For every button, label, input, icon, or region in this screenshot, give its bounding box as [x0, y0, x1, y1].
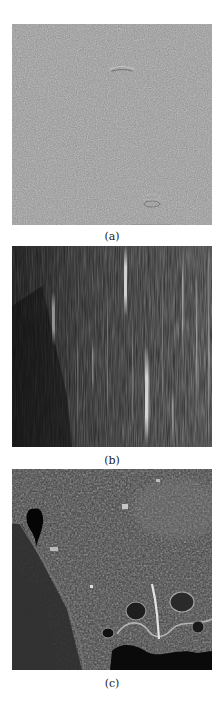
panel-b-image — [12, 246, 212, 447]
panel-a-image — [12, 24, 212, 225]
panel-b-caption: (b) — [0, 455, 224, 467]
panel-a-caption: (a) — [0, 231, 224, 243]
panel-c-image — [12, 469, 212, 670]
panel-c-caption: (c) — [0, 678, 224, 690]
